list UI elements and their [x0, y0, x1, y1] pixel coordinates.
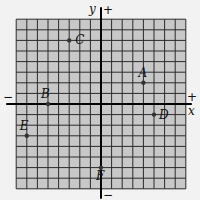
point-label: F	[95, 169, 105, 183]
x-axis-label: x	[188, 104, 195, 118]
point-marker	[152, 112, 156, 116]
y-negative-sign: −	[103, 188, 113, 200]
point-label: E	[19, 119, 29, 133]
point-label: B	[40, 87, 50, 101]
point-label: A	[137, 66, 147, 80]
point-marker	[46, 102, 50, 106]
x-positive-sign: +	[187, 90, 197, 104]
coordinate-plane: ABCDEF y + x + − −	[0, 0, 200, 200]
point-label: D	[158, 108, 169, 122]
x-negative-sign: −	[3, 90, 13, 104]
point-marker	[67, 38, 71, 42]
point-marker	[141, 81, 145, 85]
y-positive-sign: +	[103, 3, 113, 17]
point-marker	[25, 134, 29, 138]
point-f: F	[95, 165, 105, 182]
point-label: C	[75, 33, 84, 47]
y-axis-label: y	[88, 2, 96, 16]
